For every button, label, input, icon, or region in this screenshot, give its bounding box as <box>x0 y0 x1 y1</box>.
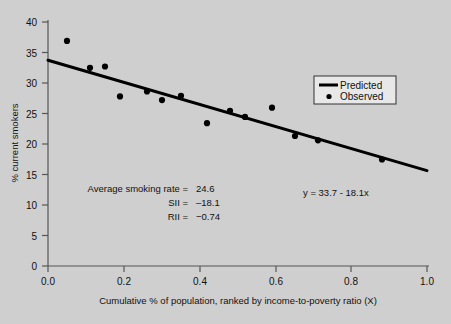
regression-equation-label: y = 33.7 - 18.1x <box>303 187 369 198</box>
annot-rii-value: −0.74 <box>196 211 220 222</box>
data-point <box>87 65 93 71</box>
x-tick-label-1.0: 1.0 <box>420 276 434 287</box>
legend-label-observed: Observed <box>340 91 383 102</box>
y-tick-label-35: 35 <box>26 48 38 59</box>
data-point <box>144 88 150 94</box>
data-point <box>204 120 210 126</box>
x-tick-label-0.0: 0.0 <box>41 276 55 287</box>
y-tick-label-20: 20 <box>26 139 38 150</box>
y-tick-label-5: 5 <box>31 231 37 242</box>
data-point <box>242 114 248 120</box>
y-tick-label-40: 40 <box>26 17 38 28</box>
data-point <box>227 108 233 114</box>
x-axis-title: Cumulative % of population, ranked by in… <box>99 295 377 306</box>
data-point <box>159 97 165 103</box>
legend-label-predicted: Predicted <box>340 80 382 91</box>
annot-sii-label: SII = <box>168 197 188 208</box>
y-tick-label-30: 30 <box>26 78 38 89</box>
data-point <box>178 93 184 99</box>
x-tick-label-0.6: 0.6 <box>269 276 283 287</box>
annot-rii-label: RII = <box>168 211 189 222</box>
y-tick-label-25: 25 <box>26 109 38 120</box>
annot-avg-label: Average smoking rate = <box>88 183 189 194</box>
annot-sii-value: –18.1 <box>196 197 220 208</box>
y-tick-label-15: 15 <box>26 170 38 181</box>
x-tick-label-0.8: 0.8 <box>344 276 358 287</box>
x-tick-label-0.2: 0.2 <box>117 276 131 287</box>
data-point <box>379 156 385 162</box>
legend-dot-swatch <box>326 94 331 99</box>
y-tick-label-0: 0 <box>31 261 37 272</box>
x-tick-label-0.4: 0.4 <box>193 276 207 287</box>
data-point <box>292 133 298 139</box>
data-point <box>117 93 123 99</box>
data-point <box>102 63 108 69</box>
data-point <box>315 137 321 143</box>
y-axis-title: % current smokers <box>9 103 20 182</box>
chart-legend: Predicted Observed <box>314 76 396 104</box>
data-point <box>64 38 70 44</box>
annot-avg-value: 24.6 <box>196 183 215 194</box>
scatter-plot: 40 35 30 25 20 15 10 5 0 0.0 0.2 0.4 0.6… <box>0 0 451 324</box>
y-tick-label-10: 10 <box>26 200 38 211</box>
chart-figure: 40 35 30 25 20 15 10 5 0 0.0 0.2 0.4 0.6… <box>0 0 451 324</box>
data-point <box>269 105 275 111</box>
